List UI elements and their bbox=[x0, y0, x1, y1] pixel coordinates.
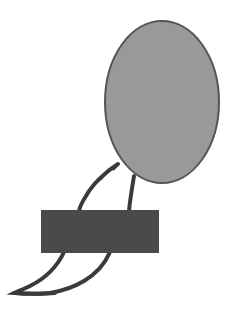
upper-right-stroke bbox=[129, 176, 134, 211]
oval-shape bbox=[105, 21, 219, 183]
drawing-canvas bbox=[0, 0, 237, 316]
upper-left-stroke bbox=[79, 164, 118, 211]
lower-left-stroke bbox=[14, 252, 64, 294]
rectangle-shape bbox=[41, 210, 159, 253]
